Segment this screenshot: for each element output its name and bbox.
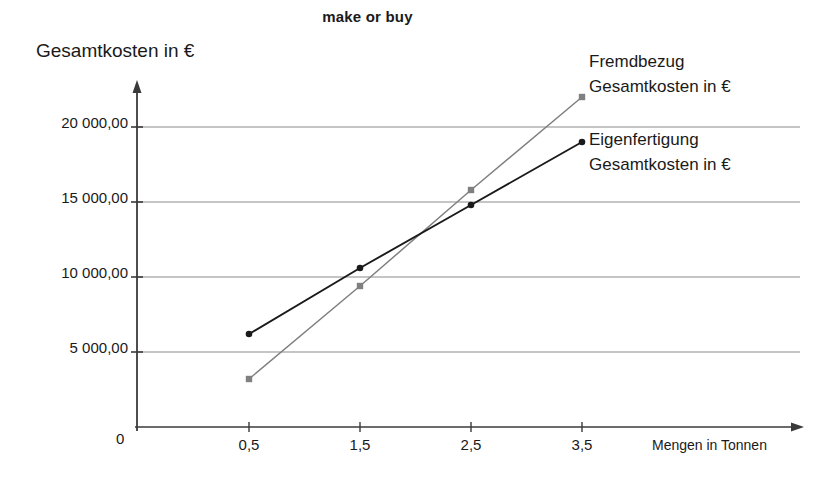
data-point-marker[interactable] bbox=[468, 202, 475, 209]
data-point-marker[interactable] bbox=[579, 139, 586, 146]
data-point-marker[interactable] bbox=[579, 94, 585, 100]
y-axis-arrowhead bbox=[133, 80, 142, 93]
data-point-marker[interactable] bbox=[246, 376, 252, 382]
chart-canvas: make or buy Gesamtkosten in € 20 000,00 … bbox=[0, 0, 839, 480]
plot-area bbox=[0, 0, 839, 480]
data-point-marker[interactable] bbox=[468, 187, 474, 193]
x-axis-arrowhead bbox=[791, 423, 804, 432]
data-point-marker[interactable] bbox=[246, 331, 253, 338]
data-point-marker[interactable] bbox=[357, 283, 363, 289]
data-point-marker[interactable] bbox=[357, 265, 364, 272]
series-line-fremdbezug bbox=[249, 97, 582, 379]
